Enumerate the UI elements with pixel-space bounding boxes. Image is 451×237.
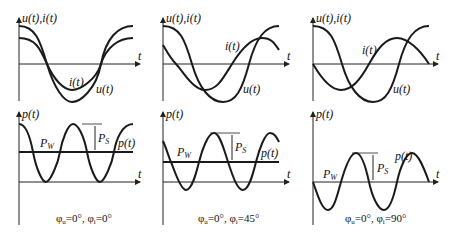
caption: φu=0°, φi=0° [56, 212, 112, 226]
axis-label-p: p(t) [165, 107, 183, 121]
label-u: u(t) [393, 82, 410, 96]
axis-label-p: p(t) [315, 107, 333, 121]
label-p: p(t) [260, 146, 278, 160]
label-pw: PW [176, 145, 192, 160]
label-pw: PW [39, 136, 55, 151]
panel-phase-0: u(t),i(t) t i(t) u(t) p(t) t PW PS p(t) … [19, 11, 142, 226]
caption: φu=0°, φi=45° [198, 212, 259, 226]
label-ps: PS [234, 140, 246, 155]
label-pw: PW [322, 167, 338, 182]
label-i: i(t) [362, 43, 377, 57]
axis-label-t: t [436, 49, 440, 63]
label-u: u(t) [96, 82, 113, 96]
caption: φu=0°, φi=90° [345, 212, 406, 226]
axis-label-ui: u(t),i(t) [316, 11, 351, 25]
label-u: u(t) [243, 82, 260, 96]
panel-phase-90: u(t),i(t) t i(t) u(t) p(t) t PW PS p(t) … [313, 11, 440, 226]
axis-label-t: t [138, 49, 142, 63]
axis-label-ui: u(t),i(t) [22, 11, 57, 25]
axis-label-p: p(t) [21, 107, 39, 121]
label-p: p(t) [394, 149, 412, 163]
label-ps: PS [376, 161, 388, 176]
label-i: i(t) [225, 39, 240, 53]
panel-phase-45: u(t),i(t) t i(t) u(t) p(t) t PW PS p(t) … [163, 11, 291, 226]
label-p: p(t) [117, 136, 135, 150]
label-ps: PS [97, 131, 109, 146]
axis-label-ui: u(t),i(t) [166, 11, 201, 25]
power-waveforms-diagram: u(t),i(t) t i(t) u(t) p(t) t PW PS p(t) … [0, 0, 451, 237]
axis-label-t: t [287, 49, 291, 63]
axis-label-t: t [436, 167, 440, 181]
axis-label-t: t [138, 167, 142, 181]
axis-label-t: t [287, 167, 291, 181]
label-i: i(t) [69, 75, 84, 89]
